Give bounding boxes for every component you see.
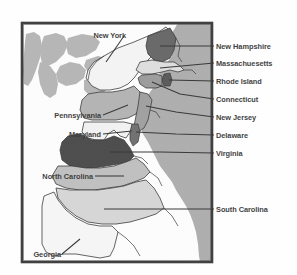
label-pennsylvania: Pennsylvania: [54, 111, 102, 120]
label-north-carolina: North Carolina: [42, 172, 94, 181]
label-rhode-island: Rhode Island: [216, 77, 262, 86]
label-virginia: Virginia: [216, 149, 244, 158]
label-south-carolina: South Carolina: [216, 205, 269, 214]
state-rhode-island: [162, 73, 172, 86]
label-new-york: New York: [93, 31, 127, 40]
label-connecticut: Connecticut: [216, 95, 259, 104]
map-figure: New Hampshire Massachuesetts Rhode Islan…: [0, 0, 297, 275]
label-new-hampshire: New Hampshire: [216, 42, 271, 51]
label-massachusetts: Massachuesetts: [216, 59, 272, 68]
label-delaware: Delaware: [216, 131, 248, 140]
label-maryland: Maryland: [69, 130, 102, 139]
map-canvas: New Hampshire Massachuesetts Rhode Islan…: [0, 0, 297, 275]
label-georgia: Georgia: [33, 250, 62, 259]
map-panel: [22, 23, 212, 262]
label-new-jersey: New Jersey: [216, 113, 257, 122]
